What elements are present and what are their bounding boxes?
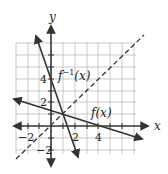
f-label: f(x) — [90, 106, 112, 120]
tick-label-y-neg2: −2 — [36, 144, 52, 157]
tick-label-y-2: 2 — [40, 96, 47, 109]
x-axis-label: x — [154, 119, 161, 133]
tick-label-x-2: 2 — [72, 131, 79, 144]
tick-label-x-4: 4 — [95, 131, 102, 144]
y-axis-label: y — [48, 10, 56, 24]
tick-label-x-neg2: −2 — [18, 131, 34, 144]
tick-label-y-4: 4 — [40, 73, 47, 86]
f-inverse-label: f−1(x) — [57, 68, 91, 83]
graph: y x −2 2 4 4 2 −2 f−1(x) f(x) — [0, 0, 168, 174]
identity-line — [16, 35, 144, 159]
